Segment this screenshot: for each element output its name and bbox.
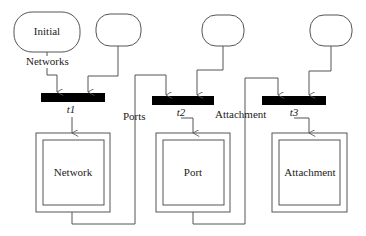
transition-t2-label: t2 — [177, 106, 186, 118]
transition-t3 — [262, 96, 326, 105]
module-attachment-label: Attachment — [284, 166, 335, 178]
arc-place2-to-t1 — [88, 46, 118, 92]
arc-place3-to-t2 — [197, 46, 223, 95]
transition-t1-label: t1 — [67, 103, 76, 115]
place-initial: Initial — [14, 12, 80, 52]
module-port-label: Port — [184, 166, 202, 178]
arc-t3-to-attachment — [294, 118, 309, 133]
place-2 — [96, 14, 141, 46]
module-network: Network — [36, 133, 110, 212]
transition-t3-label: t3 — [290, 106, 299, 118]
arc-label-attachment: Attachment — [215, 108, 266, 120]
arc-place4-to-t3 — [309, 46, 331, 95]
place-initial-label: Initial — [34, 25, 60, 37]
module-port: Port — [156, 133, 230, 212]
place-4 — [310, 15, 352, 46]
arc-label-networks: Networks — [26, 55, 69, 67]
arc-t2-to-port — [181, 118, 193, 133]
module-network-label: Network — [54, 166, 93, 178]
arc-label-ports: Ports — [123, 110, 146, 122]
place-3 — [202, 15, 244, 46]
transition-t1 — [41, 93, 105, 102]
petri-net-diagram: Initial t1 t2 t3 Networks Ports Attachme… — [0, 0, 366, 236]
module-attachment: Attachment — [272, 133, 347, 212]
transition-t2 — [152, 96, 214, 105]
